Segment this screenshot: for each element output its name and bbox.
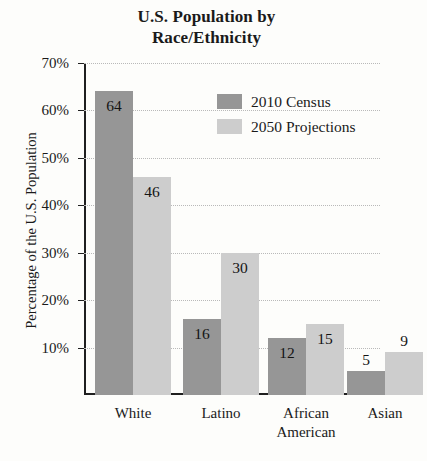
x-axis-label-asian: Asian [325,404,427,423]
y-axis-tick-label-30%: 30% [42,246,70,261]
y-axis-line [84,63,86,395]
y-axis-tick-70%: 70% [78,63,84,64]
y-axis-tick-60%: 60% [78,110,84,111]
y-axis-tick-label-10%: 10% [42,341,70,356]
y-axis-title: Percentage of the U.S. Population [23,91,40,371]
legend-item-2010-census: 2010 Census [217,89,356,114]
x-axis-label-line: American [246,423,366,442]
y-axis-tick-label-70%: 70% [42,56,70,71]
legend-label-2010-census: 2010 Census [251,94,331,110]
y-axis-tick-label-50%: 50% [42,151,70,166]
bar-value-label: 12 [279,345,295,361]
legend-swatch-icon-2010-census [217,94,242,109]
bar-white-series-0: 64 [95,91,133,395]
y-axis-tick-20%: 20% [78,300,84,301]
bar-asian-series-0: 5 [347,371,385,395]
bar-latino-series-0: 16 [183,319,221,395]
chart-title-line-2: Race/Ethnicity [0,27,413,48]
bar-african-american-series-1: 15 [306,324,344,395]
bar-value-label: 9 [400,333,408,349]
bar-white-series-1: 46 [133,177,171,395]
y-axis-tick-40%: 40% [78,205,84,206]
y-axis-tick-10%: 10% [78,348,84,349]
y-axis-tick-label-40%: 40% [42,198,70,213]
bar-value-label: 46 [144,184,160,200]
bar-value-label: 16 [194,326,210,342]
legend-swatch-icon-2050-projections [217,119,242,134]
y-axis-tick-label-20%: 20% [42,293,70,308]
y-axis-tick-label-60%: 60% [42,104,70,119]
legend-label-2050-projections: 2050 Projections [251,119,356,135]
bar-value-label: 30 [232,260,248,276]
chart-title-line-1: U.S. Population by [0,6,413,27]
bar-latino-series-1: 30 [221,253,259,395]
chart-title: U.S. Population by Race/Ethnicity [0,6,413,48]
x-axis-label-line: Asian [325,404,427,423]
bar-african-american-series-0: 12 [268,338,306,395]
y-axis-tick-30%: 30% [78,253,84,254]
bar-asian-series-1: 9 [385,352,423,395]
legend-item-2050-projections: 2050 Projections [217,114,356,139]
y-axis-tick-50%: 50% [78,158,84,159]
chart-legend: 2010 Census 2050 Projections [217,89,356,139]
bar-value-label: 5 [362,352,370,368]
bar-value-label: 64 [106,98,122,114]
bar-value-label: 15 [317,331,333,347]
gridline-70% [84,63,380,64]
